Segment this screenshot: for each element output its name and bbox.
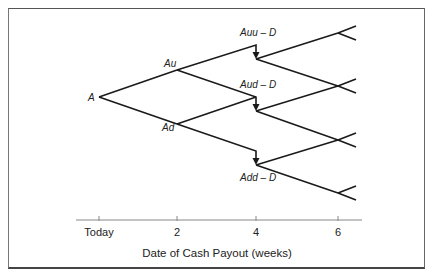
node-label-a: A [87, 92, 95, 103]
branch-ud-down [256, 111, 338, 140]
stub-3-up [338, 133, 356, 140]
branch-ad-up [177, 97, 256, 124]
axis-tick-label-6: 6 [335, 226, 341, 238]
node-label-add-d: Add – D [239, 172, 276, 183]
stub-2-up [338, 79, 356, 86]
stub-1-up [338, 26, 356, 33]
axis-tick-label-4: 4 [253, 226, 259, 238]
stub-4-down [338, 193, 356, 200]
stub-4-up [338, 186, 356, 193]
branch-au-up [177, 45, 256, 70]
stub-3-down [338, 140, 356, 147]
node-label-aud-d: Aud – D [239, 79, 276, 90]
node-label-au: Au [163, 58, 177, 69]
branch-a-up [99, 70, 177, 97]
branch-a-down [99, 97, 177, 124]
binomial-tree-diagram: A Au Ad Auu – D Aud – D Add – D Today 2 … [0, 0, 436, 278]
node-label-auu-d: Auu – D [239, 27, 276, 38]
time-axis [76, 216, 362, 221]
dividend-arrows [253, 52, 260, 165]
tree-branches [99, 26, 356, 200]
stub-2-down [338, 86, 356, 93]
stub-1-down [338, 33, 356, 40]
node-label-ad: Ad [161, 122, 175, 133]
axis-title: Date of Cash Payout (weeks) [142, 247, 292, 259]
branch-dd-up [256, 140, 338, 165]
axis-tick-label-today: Today [84, 226, 114, 238]
axis-tick-label-2: 2 [174, 226, 180, 238]
branch-ad-down [177, 124, 256, 159]
